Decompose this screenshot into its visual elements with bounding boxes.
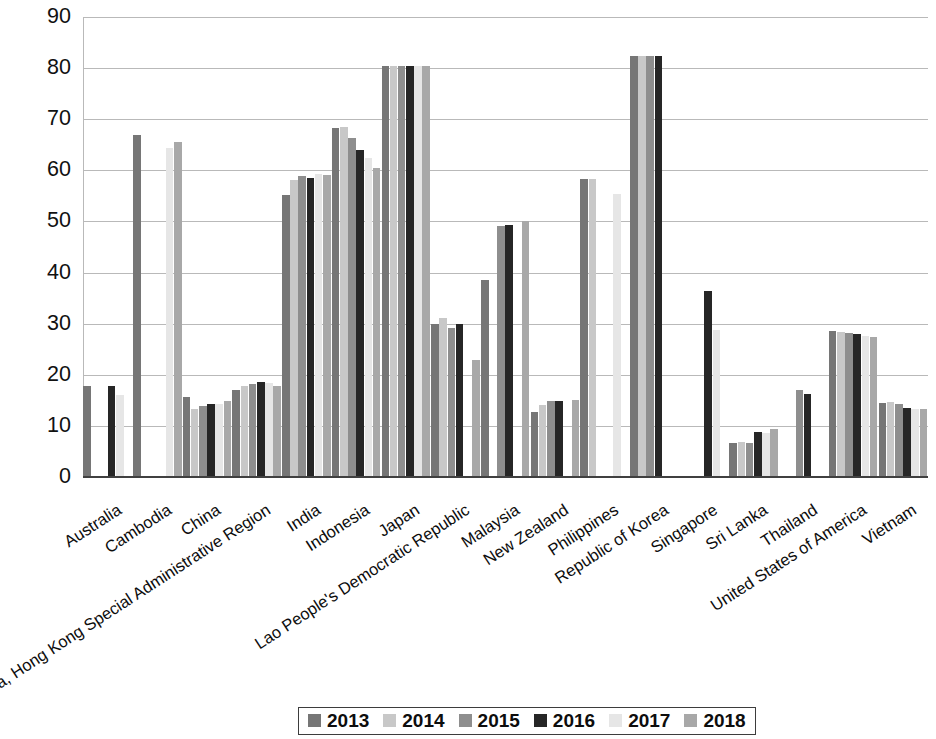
bar-group: [481, 17, 531, 477]
bar: [282, 195, 290, 477]
bar: [273, 386, 281, 477]
legend-label: 2013: [327, 711, 369, 730]
bar: [290, 180, 298, 477]
x-axis-line: [83, 476, 928, 478]
bar: [754, 432, 762, 477]
bar: [555, 401, 563, 477]
y-axis-tick-label: 50: [23, 210, 71, 231]
bar: [613, 194, 621, 477]
bar-group: [232, 17, 282, 477]
bar: [837, 332, 845, 477]
legend-swatch-icon: [459, 714, 472, 727]
bar-group: [431, 17, 481, 477]
bar: [895, 404, 903, 477]
bar: [191, 409, 199, 477]
bar-group: [133, 17, 183, 477]
bar: [879, 403, 887, 477]
bar-group: [779, 17, 829, 477]
legend-item[interactable]: 2015: [459, 711, 520, 730]
bar-group: [580, 17, 630, 477]
bar: [307, 178, 315, 478]
legend-item[interactable]: 2013: [308, 711, 369, 730]
bar: [646, 56, 654, 477]
bar: [422, 66, 430, 477]
y-axis-tick-label: 10: [23, 415, 71, 436]
bar-group: [332, 17, 382, 477]
y-axis-tick-label: 40: [23, 262, 71, 283]
legend-item[interactable]: 2018: [684, 711, 745, 730]
bar-group: [679, 17, 729, 477]
bar: [589, 179, 597, 477]
bar: [505, 225, 513, 477]
bar: [762, 433, 770, 477]
bar: [829, 331, 837, 477]
bar: [174, 142, 182, 477]
bar: [862, 336, 870, 477]
plot-area: 0102030405060708090 AustraliaCambodiaChi…: [83, 17, 928, 477]
bar: [414, 66, 422, 477]
bar-group: [282, 17, 332, 477]
legend-label: 2017: [628, 711, 670, 730]
bar: [398, 66, 406, 477]
bar: [133, 135, 141, 477]
bar: [704, 291, 712, 477]
bar: [365, 158, 373, 477]
bar: [630, 56, 638, 477]
bar: [738, 442, 746, 477]
bar: [108, 386, 116, 477]
bar: [249, 384, 257, 477]
bar: [804, 394, 812, 477]
bar: [448, 328, 456, 477]
bar: [166, 148, 174, 477]
legend-item[interactable]: 2017: [609, 711, 670, 730]
bar: [265, 383, 273, 477]
bar-chart: 0102030405060708090 AustraliaCambodiaChi…: [0, 0, 936, 739]
bar: [439, 318, 447, 477]
bar: [497, 226, 505, 477]
bar: [456, 324, 464, 477]
y-axis-tick-label: 90: [23, 6, 71, 27]
bar: [911, 409, 919, 477]
bar: [580, 179, 588, 477]
x-axis-tick-label: Lao People's Democratic Republic: [252, 501, 472, 652]
bar-group: [83, 17, 133, 477]
bar: [373, 168, 381, 477]
bar: [431, 324, 439, 477]
legend-label: 2015: [478, 711, 520, 730]
bar: [332, 128, 340, 477]
bar: [241, 386, 249, 477]
bar: [655, 56, 663, 477]
bar: [853, 334, 861, 477]
bar: [116, 395, 124, 477]
bar: [746, 443, 754, 477]
bar: [340, 127, 348, 477]
bar: [298, 176, 306, 477]
bar-group: [878, 17, 928, 477]
bar: [547, 401, 555, 477]
bar: [348, 138, 356, 477]
y-axis-tick-label: 0: [23, 466, 71, 487]
bar: [472, 360, 480, 477]
bar: [887, 402, 895, 477]
legend-label: 2016: [553, 711, 595, 730]
bar: [199, 406, 207, 477]
bar: [83, 386, 91, 477]
legend-item[interactable]: 2016: [534, 711, 595, 730]
chart-legend: 201320142015201620172018: [298, 707, 756, 735]
bar: [796, 390, 804, 477]
legend-swatch-icon: [609, 714, 622, 727]
x-axis-tick-label: Vietnam: [860, 501, 920, 548]
bar-group: [729, 17, 779, 477]
bar: [638, 56, 646, 477]
bar: [315, 174, 323, 477]
bar: [382, 66, 390, 477]
bar: [356, 150, 364, 477]
bar: [572, 400, 580, 477]
bar-group: [530, 17, 580, 477]
bar: [183, 397, 191, 477]
bar: [845, 333, 853, 477]
y-axis-tick-label: 80: [23, 57, 71, 78]
legend-label: 2014: [402, 711, 444, 730]
bar: [390, 66, 398, 477]
legend-item[interactable]: 2014: [383, 711, 444, 730]
